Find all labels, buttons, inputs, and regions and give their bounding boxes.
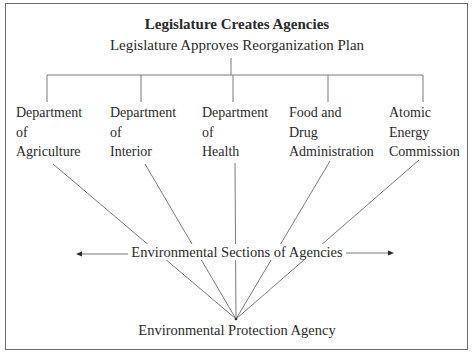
converge-aec [236,160,419,319]
dept-label-line: Department [202,103,268,123]
dept-label-line: of [202,123,268,143]
dept-label-line: Food and [289,103,374,123]
dept-label-line: Agriculture [16,142,82,162]
dept-fda: Food and Drug Administration [289,103,374,162]
converge-health [235,163,236,319]
diagram-title: Legislature Creates Agencies [0,16,474,33]
middle-label-text: Environmental Sections of Agencies [128,244,345,260]
dept-label-line: Department [16,103,82,123]
dept-label-line: of [16,123,82,143]
dept-label-line: Atomic [389,103,460,123]
epa-label: Environmental Protection Agency [0,322,474,339]
dept-label-line: Commission [389,142,460,162]
converge-interior [145,164,236,319]
convergence-point [235,318,238,321]
dept-label-line: Energy [389,123,460,143]
dept-aec: Atomic Energy Commission [389,103,460,162]
dept-label-line: Drug [289,123,374,143]
dept-label-line: Administration [289,142,374,162]
dept-label-line: Health [202,142,268,162]
environmental-sections-label: Environmental Sections of Agencies [0,244,474,261]
diagram-subtitle: Legislature Approves Reorganization Plan [0,37,474,54]
dept-health: Department of Health [202,103,268,162]
converge-agriculture [53,164,236,319]
dept-agriculture: Department of Agriculture [16,103,82,162]
dept-interior: Department of Interior [110,103,176,162]
dept-label-line: Department [110,103,176,123]
dept-label-line: Interior [110,142,176,162]
dept-label-line: of [110,123,176,143]
converge-fda [236,161,330,319]
